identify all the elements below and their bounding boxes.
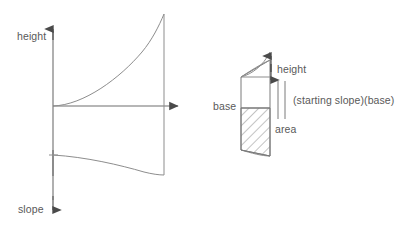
label-height-measure: height <box>277 64 306 75</box>
height-curve <box>53 14 164 106</box>
label-base: base <box>213 101 236 112</box>
top-curve-wedge-outer <box>241 52 270 77</box>
label-height-axis: height <box>17 31 46 42</box>
figure-svg <box>0 0 409 228</box>
figure-root: height slope base height area (starting … <box>0 0 409 228</box>
left-diagram-group <box>49 14 178 210</box>
label-formula: (starting slope)(base) <box>293 95 394 106</box>
label-area: area <box>275 124 296 135</box>
area-hatched-region <box>241 108 270 156</box>
slope-curve <box>53 155 164 175</box>
label-slope-axis: slope <box>18 204 44 215</box>
